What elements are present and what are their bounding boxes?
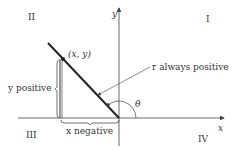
x-brace: [61, 120, 119, 125]
x-axis-label: x: [218, 123, 223, 133]
quadrant-iii-label: III: [26, 130, 37, 140]
polar-coordinate-diagram: II I III IV y x (x, y) r always positive…: [0, 0, 232, 150]
point-label: (x, y): [68, 49, 91, 59]
theta-label: θ: [135, 99, 141, 109]
quadrant-i-label: I: [206, 14, 210, 24]
r-label: r always positive: [152, 62, 229, 72]
y-brace: [55, 60, 59, 118]
y-axis-label: y: [111, 9, 118, 19]
x-brace-label: x negative: [66, 126, 113, 136]
r-pointer: [98, 67, 150, 95]
y-brace-label: y positive: [7, 83, 52, 93]
quadrant-iv-label: IV: [198, 134, 209, 144]
quadrant-ii-label: II: [28, 12, 36, 22]
point-xy: [61, 57, 65, 61]
